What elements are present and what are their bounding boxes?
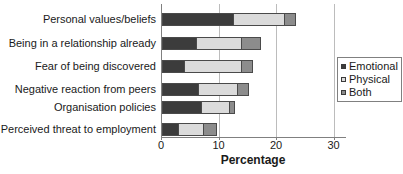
bar-segment-physical — [178, 123, 204, 136]
legend-swatch-icon — [341, 77, 346, 82]
category-label: Personal values/beliefs — [0, 13, 156, 26]
bar-row-4 — [162, 83, 249, 96]
bar-segment-both — [237, 83, 249, 96]
legend-swatch-icon — [341, 90, 346, 95]
bar-row-6 — [162, 123, 217, 136]
category-label: Fear of being discovered — [0, 60, 156, 73]
x-axis-tick-label: 0 — [158, 139, 164, 151]
bar-segment-both — [241, 60, 253, 73]
bar-row-3 — [162, 60, 253, 73]
gridline-30 — [334, 4, 335, 137]
legend-entry-both: Both — [341, 86, 398, 99]
bar-segment-physical — [196, 37, 242, 50]
bar-segment-emotional — [162, 13, 234, 26]
legend-label: Emotional — [349, 60, 398, 73]
bar-segment-physical — [198, 83, 238, 96]
stacked-bar-chart: Personal values/beliefsBeing in a relati… — [0, 0, 403, 174]
bar-segment-emotional — [162, 101, 202, 114]
legend-label: Physical — [349, 73, 390, 86]
bar-segment-emotional — [162, 123, 179, 136]
legend-entry-physical: Physical — [341, 73, 398, 86]
category-label: Negative reaction from peers — [0, 83, 156, 96]
legend-label: Both — [349, 86, 372, 99]
bar-row-1 — [162, 13, 296, 26]
bar-segment-emotional — [162, 83, 199, 96]
bar-row-2 — [162, 37, 261, 50]
bar-segment-physical — [233, 13, 285, 26]
bar-segment-emotional — [162, 60, 185, 73]
x-axis-tick-label: 20 — [270, 139, 282, 151]
bar-row-5 — [162, 101, 235, 114]
bar-segment-emotional — [162, 37, 197, 50]
bar-segment-both — [229, 101, 235, 114]
bar-segment-both — [203, 123, 217, 136]
plot-area — [161, 4, 346, 138]
bar-segment-physical — [201, 101, 230, 114]
legend-entry-emotional: Emotional — [341, 60, 398, 73]
bar-segment-physical — [184, 60, 242, 73]
category-label: Being in a relationship already — [0, 37, 156, 50]
category-label: Organisation policies — [0, 101, 156, 114]
x-axis-tick-label: 10 — [212, 139, 224, 151]
x-axis-tick-label: 30 — [327, 139, 339, 151]
x-axis-title: Percentage — [161, 153, 345, 167]
bar-segment-both — [284, 13, 296, 26]
bar-segment-both — [241, 37, 261, 50]
category-label: Perceived threat to employment — [0, 123, 156, 136]
legend: EmotionalPhysicalBoth — [337, 57, 402, 102]
legend-swatch-icon — [341, 64, 346, 69]
